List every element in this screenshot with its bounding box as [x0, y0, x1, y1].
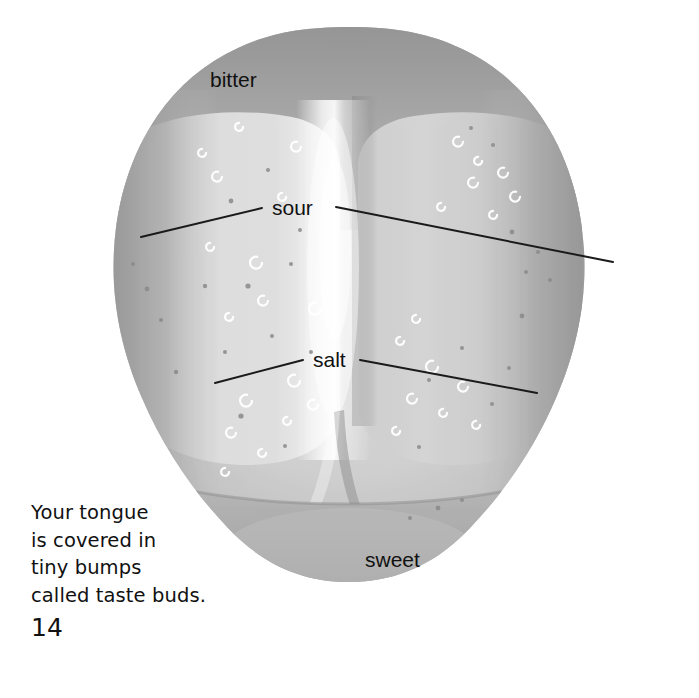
figure-caption: Your tongue is covered in tiny bumps cal…: [31, 499, 206, 609]
taste-label-salt: salt: [313, 349, 346, 370]
taste-label-bitter: bitter: [210, 69, 257, 90]
page-number: 14: [31, 615, 63, 640]
taste-label-sour: sour: [272, 197, 313, 218]
taste-label-sweet: sweet: [365, 549, 420, 570]
book-page: bitter sour salt sweet Your tongue is co…: [0, 0, 699, 698]
